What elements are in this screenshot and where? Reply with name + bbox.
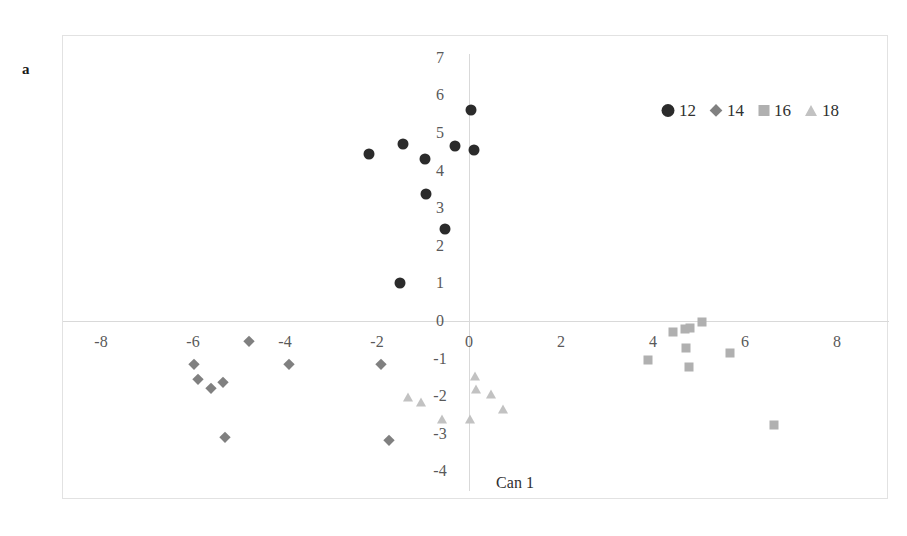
x-tick-label: -8 (94, 333, 107, 351)
data-point-12 (364, 149, 375, 160)
y-tick-label: -4 (433, 462, 446, 480)
data-point-14 (189, 358, 200, 369)
y-tick-label: 7 (436, 49, 444, 67)
y-tick-label: 2 (436, 237, 444, 255)
data-point-18 (465, 415, 475, 424)
y-tick-label: 6 (436, 86, 444, 104)
data-point-12 (465, 105, 476, 116)
data-point-18 (471, 385, 481, 394)
data-point-14 (206, 383, 217, 394)
figure-container: a Can 2 -8-6-4-202468-4-3-2-101234567 12… (0, 0, 907, 536)
data-point-16 (698, 318, 707, 327)
x-axis-zero-line (63, 321, 889, 322)
data-point-18 (470, 371, 480, 380)
legend-entry-16[interactable]: 16 (758, 102, 791, 119)
data-point-14 (284, 358, 295, 369)
data-point-14 (376, 358, 387, 369)
x-tick-label: 4 (649, 333, 657, 351)
triangle-icon (805, 104, 817, 116)
legend-label: 14 (727, 102, 744, 119)
legend-entry-12[interactable]: 12 (661, 102, 696, 119)
data-point-16 (769, 421, 778, 430)
panel-letter: a (22, 61, 30, 78)
circle-icon (661, 104, 674, 117)
square-icon (758, 105, 769, 116)
x-tick-label: 6 (741, 333, 749, 351)
data-point-12 (398, 138, 409, 149)
data-point-16 (684, 362, 693, 371)
x-tick-label: 8 (833, 333, 841, 351)
y-tick-label: -1 (433, 350, 446, 368)
data-point-12 (419, 153, 430, 164)
data-point-16 (725, 348, 734, 357)
data-point-18 (416, 397, 426, 406)
data-point-12 (469, 144, 480, 155)
data-point-12 (440, 223, 451, 234)
chart-frame: -8-6-4-202468-4-3-2-101234567 12141618 (62, 35, 888, 499)
y-tick-label: -3 (433, 425, 446, 443)
y-tick-label: 3 (436, 199, 444, 217)
data-point-14 (244, 336, 255, 347)
legend-label: 16 (774, 102, 791, 119)
y-tick-label: 5 (436, 124, 444, 142)
y-tick-label: 1 (436, 274, 444, 292)
x-axis-title: Can 1 (496, 474, 534, 492)
x-tick-label: -6 (186, 333, 199, 351)
legend-entry-18[interactable]: 18 (805, 102, 839, 119)
x-tick-label: -2 (370, 333, 383, 351)
x-tick-label: 2 (557, 333, 565, 351)
data-point-18 (486, 389, 496, 398)
plot-area: -8-6-4-202468-4-3-2-101234567 12141618 (63, 36, 887, 498)
legend-label: 18 (822, 102, 839, 119)
data-point-14 (384, 434, 395, 445)
y-axis-zero-line (469, 54, 470, 491)
data-point-12 (450, 141, 461, 152)
data-point-14 (193, 374, 204, 385)
data-point-12 (421, 188, 432, 199)
data-point-14 (218, 377, 229, 388)
diamond-icon (710, 104, 722, 116)
legend: 12141618 (661, 102, 839, 119)
y-tick-label: -2 (433, 387, 446, 405)
data-point-12 (395, 278, 406, 289)
legend-label: 12 (679, 102, 696, 119)
data-point-16 (668, 327, 677, 336)
legend-entry-14[interactable]: 14 (710, 102, 744, 119)
data-point-16 (643, 356, 652, 365)
data-point-18 (437, 415, 447, 424)
data-point-16 (682, 344, 691, 353)
data-point-16 (685, 324, 694, 333)
data-point-14 (220, 432, 231, 443)
data-point-18 (403, 392, 413, 401)
x-tick-label: -4 (278, 333, 291, 351)
data-point-18 (498, 404, 508, 413)
y-tick-label: 4 (436, 162, 444, 180)
